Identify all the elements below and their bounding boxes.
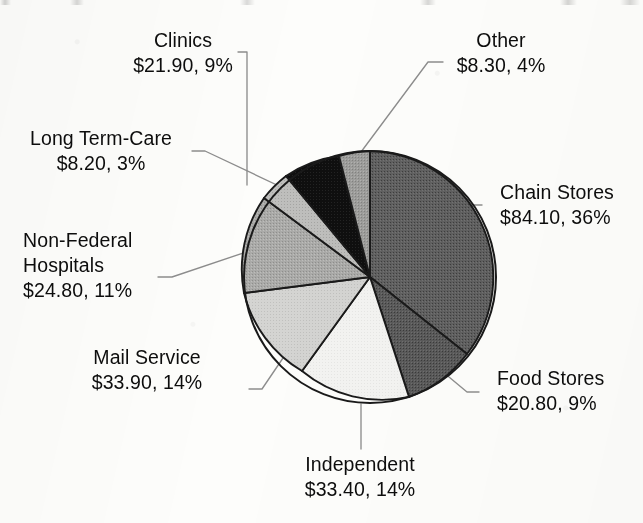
label-food-stores: Food Stores $20.80, 9% <box>497 366 643 416</box>
label-long-term-care: Long Term-Care $8.20, 3% <box>10 126 192 176</box>
label-chain-stores-value: $84.10, 36% <box>500 205 643 230</box>
label-mail-service-value: $33.90, 14% <box>52 370 242 395</box>
label-mail-service: Mail Service $33.90, 14% <box>52 345 242 395</box>
label-non-federal-hospitals: Non-Federal Hospitals $24.80, 11% <box>23 228 173 303</box>
label-mail-service-name: Mail Service <box>52 345 242 370</box>
label-clinics-name: Clinics <box>128 28 238 53</box>
label-other: Other $8.30, 4% <box>441 28 561 78</box>
label-non-federal-hospitals-value: $24.80, 11% <box>23 278 173 303</box>
pie-chart-page: Clinics $21.90, 9% Other $8.30, 4% Long … <box>0 0 643 523</box>
label-food-stores-value: $20.80, 9% <box>497 391 643 416</box>
label-long-term-care-value: $8.20, 3% <box>10 151 192 176</box>
leader-line-other <box>361 62 443 152</box>
label-non-federal-hospitals-name-line2: Hospitals <box>23 253 173 278</box>
label-independent-value: $33.40, 14% <box>265 477 455 502</box>
label-long-term-care-name: Long Term-Care <box>10 126 192 151</box>
label-independent-name: Independent <box>265 452 455 477</box>
label-chain-stores: Chain Stores $84.10, 36% <box>500 180 643 230</box>
label-other-value: $8.30, 4% <box>441 53 561 78</box>
scan-top-edge-artifact <box>0 0 643 5</box>
label-non-federal-hospitals-name-line1: Non-Federal <box>23 228 173 253</box>
label-other-name: Other <box>441 28 561 53</box>
label-clinics: Clinics $21.90, 9% <box>128 28 238 78</box>
label-chain-stores-name: Chain Stores <box>500 180 643 205</box>
label-clinics-value: $21.90, 9% <box>128 53 238 78</box>
label-food-stores-name: Food Stores <box>497 366 643 391</box>
label-independent: Independent $33.40, 14% <box>265 452 455 502</box>
leader-line-clinics <box>238 52 247 185</box>
